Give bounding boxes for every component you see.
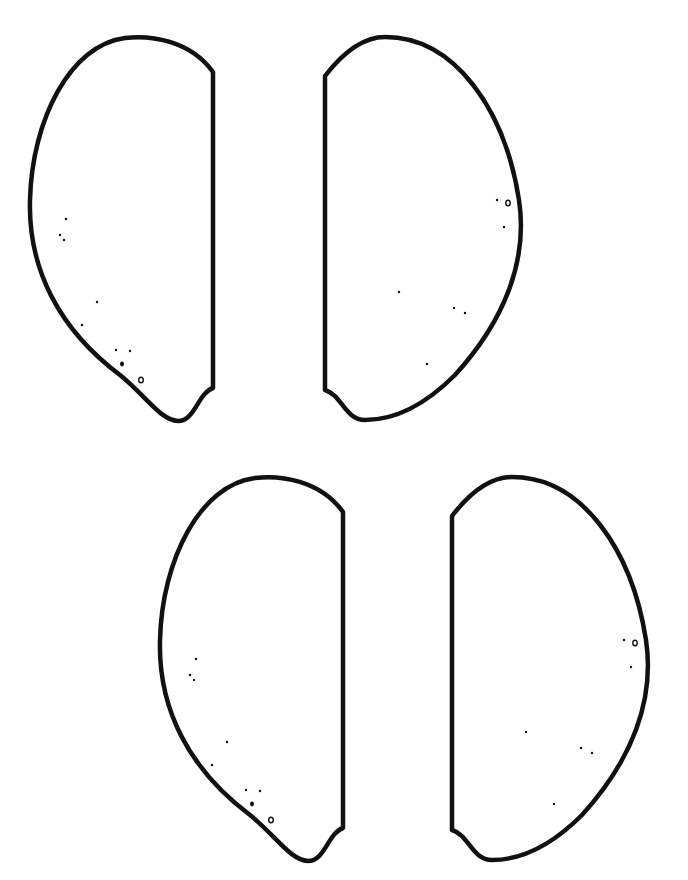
shape-top-left xyxy=(30,37,213,421)
shape-bottom-right xyxy=(452,477,648,860)
shape-bottom-left xyxy=(160,477,343,861)
shape-top-right xyxy=(325,37,521,420)
template-sheet xyxy=(0,0,688,880)
